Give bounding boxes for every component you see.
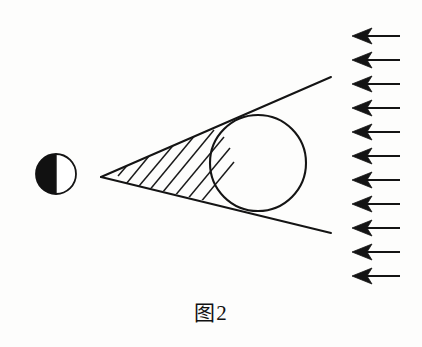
- diagram-canvas: [0, 0, 422, 347]
- half-shaded-circle: [36, 154, 76, 194]
- figure-container: 图2: [0, 0, 422, 347]
- figure-caption: 图2: [0, 296, 422, 326]
